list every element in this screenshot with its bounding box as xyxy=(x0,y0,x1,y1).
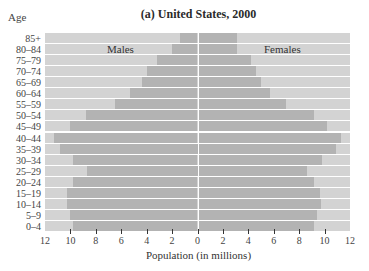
age-group-label: 20–24 xyxy=(0,177,41,188)
female-bar xyxy=(198,88,270,98)
plot-area xyxy=(45,33,350,232)
age-group-label: 45–49 xyxy=(0,121,41,132)
x-tick-mark xyxy=(121,229,122,234)
female-bar xyxy=(198,133,342,143)
female-bar xyxy=(198,166,307,176)
x-tick-label: 6 xyxy=(111,235,131,246)
female-bar xyxy=(198,55,251,65)
x-tick-label: 8 xyxy=(289,235,309,246)
age-group-label: 5–9 xyxy=(0,210,41,221)
y-axis-label: Age xyxy=(8,11,26,23)
age-group-label: 0–4 xyxy=(0,221,41,232)
x-tick-label: 8 xyxy=(86,235,106,246)
age-group-label: 40–44 xyxy=(0,133,41,144)
center-axis-line xyxy=(198,33,199,232)
male-bar xyxy=(70,210,197,220)
female-bar xyxy=(198,177,315,187)
age-group-label: 80–84 xyxy=(0,44,41,55)
female-bar xyxy=(198,99,287,109)
male-bar xyxy=(87,166,198,176)
female-bar xyxy=(198,33,237,43)
x-tick-label: 12 xyxy=(340,235,360,246)
female-bar xyxy=(198,221,315,231)
male-bar xyxy=(67,199,198,209)
males-label: Males xyxy=(107,43,134,55)
x-tick-label: 4 xyxy=(137,235,157,246)
x-tick-label: 0 xyxy=(188,235,208,246)
female-bar xyxy=(198,199,321,209)
female-bar xyxy=(198,144,337,154)
age-group-label: 70–74 xyxy=(0,66,41,77)
female-bar xyxy=(198,188,320,198)
x-tick-label: 12 xyxy=(35,235,55,246)
male-bar xyxy=(54,133,198,143)
x-tick-label: 6 xyxy=(264,235,284,246)
females-label: Females xyxy=(264,43,301,55)
age-group-label: 10–14 xyxy=(0,199,41,210)
x-tick-mark xyxy=(299,229,300,234)
male-bar xyxy=(70,121,197,131)
male-bar xyxy=(73,177,198,187)
x-tick-label: 10 xyxy=(60,235,80,246)
male-bar xyxy=(130,88,197,98)
male-bar xyxy=(147,66,198,76)
male-bar xyxy=(115,99,198,109)
age-group-label: 35–39 xyxy=(0,144,41,155)
male-bar xyxy=(142,77,198,87)
age-group-label: 60–64 xyxy=(0,88,41,99)
x-axis-label: Population (in millions) xyxy=(0,249,369,261)
x-tick-label: 2 xyxy=(162,235,182,246)
female-bar xyxy=(198,121,328,131)
male-bar xyxy=(86,110,198,120)
age-group-label: 75–79 xyxy=(0,55,41,66)
age-group-label: 50–54 xyxy=(0,110,41,121)
x-tick-mark xyxy=(172,229,173,234)
age-group-label: 55–59 xyxy=(0,99,41,110)
male-bar xyxy=(172,44,197,54)
x-tick-mark xyxy=(96,229,97,234)
x-tick-mark xyxy=(70,229,71,234)
female-bar xyxy=(198,66,256,76)
age-group-label: 25–29 xyxy=(0,166,41,177)
chart-title: (a) United States, 2000 xyxy=(0,7,369,22)
x-tick-mark xyxy=(274,229,275,234)
x-tick-label: 10 xyxy=(315,235,335,246)
male-bar xyxy=(180,33,198,43)
female-bar xyxy=(198,44,237,54)
female-bar xyxy=(198,155,323,165)
age-group-label: 85+ xyxy=(0,33,41,44)
x-tick-label: 4 xyxy=(238,235,258,246)
age-group-label: 30–34 xyxy=(0,155,41,166)
female-bar xyxy=(198,110,315,120)
x-tick-label: 2 xyxy=(213,235,233,246)
age-group-label: 15–19 xyxy=(0,188,41,199)
x-tick-mark xyxy=(325,229,326,234)
male-bar xyxy=(73,155,198,165)
female-bar xyxy=(198,210,317,220)
x-tick-mark xyxy=(248,229,249,234)
male-bar xyxy=(157,55,198,65)
x-tick-mark xyxy=(147,229,148,234)
male-bar xyxy=(73,221,198,231)
x-tick-mark xyxy=(223,229,224,234)
x-tick-mark xyxy=(198,229,199,234)
age-group-label: 65–69 xyxy=(0,77,41,88)
male-bar xyxy=(60,144,197,154)
female-bar xyxy=(198,77,262,87)
male-bar xyxy=(67,188,198,198)
